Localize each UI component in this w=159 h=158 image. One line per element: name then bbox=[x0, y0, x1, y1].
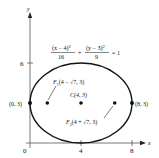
equation-term2-denominator: 9 bbox=[95, 54, 98, 60]
right-vertex-point bbox=[130, 101, 134, 105]
equation-term1-denominator: 16 bbox=[58, 54, 64, 60]
equation-term1-numerator: (x − 4)2 bbox=[52, 44, 71, 53]
y-tick-label-6: 6 bbox=[20, 60, 24, 68]
x-tick-label-4: 4 bbox=[79, 147, 83, 155]
left-vertex-point bbox=[28, 101, 32, 105]
ellipse-diagram: y x 0 4 8 6 (x − 4)2 16 + (y − 3)2 9 = 1… bbox=[0, 0, 159, 158]
equation-term2-numerator: (y − 3)2 bbox=[86, 44, 105, 53]
focus1-label: F1(4 − √7, 3) bbox=[52, 79, 84, 87]
focus2-leader-line bbox=[104, 106, 113, 118]
center-label: C(4, 3) bbox=[70, 92, 87, 99]
origin-label: 0 bbox=[23, 147, 27, 155]
focus2-point bbox=[113, 101, 117, 105]
y-axis-label: y bbox=[26, 6, 30, 12]
x-axis-arrow-icon bbox=[140, 141, 146, 145]
equation-plus: + bbox=[78, 50, 82, 56]
center-point bbox=[79, 101, 83, 105]
focus2-label: F2(4 + √7, 3) bbox=[65, 119, 97, 127]
right-vertex-label: (8, 3) bbox=[135, 101, 148, 108]
y-axis-arrow-icon bbox=[28, 12, 32, 18]
ellipse-equation: (x − 4)2 16 + (y − 3)2 9 = 1 bbox=[51, 44, 120, 61]
focus1-point bbox=[46, 101, 50, 105]
left-vertex-label: (0, 3) bbox=[9, 101, 22, 108]
x-tick-label-8: 8 bbox=[130, 147, 134, 155]
equation-equals: = 1 bbox=[112, 50, 120, 56]
focus1-leader-line bbox=[48, 86, 56, 100]
x-axis-label: x bbox=[147, 140, 151, 146]
